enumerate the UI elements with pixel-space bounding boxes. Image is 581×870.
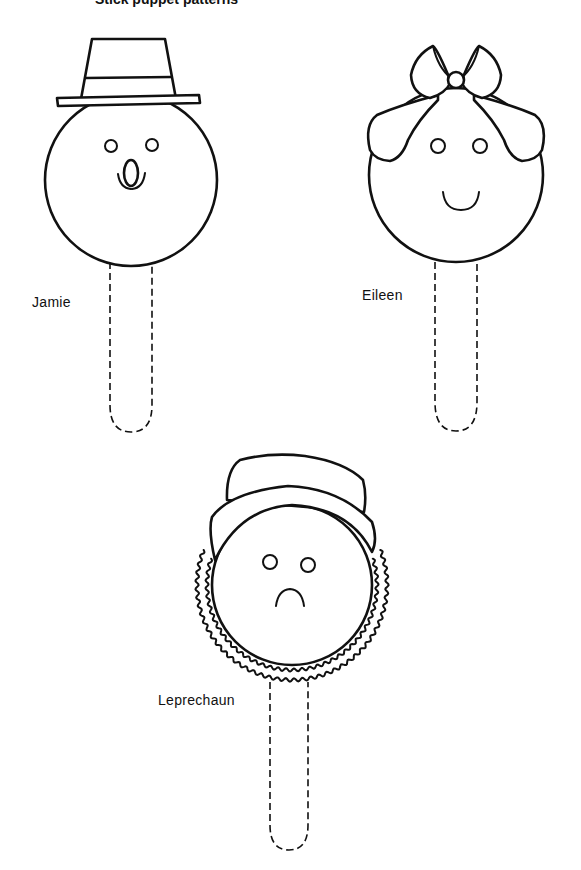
eileen-stick-outline (435, 262, 477, 431)
jamie-hat-band (86, 77, 171, 78)
jamie-stick-outline (110, 262, 152, 432)
puppet-label-eileen: Eileen (362, 287, 403, 303)
puppet-label-leprechaun: Leprechaun (158, 692, 235, 708)
puppet-jamie (45, 39, 217, 432)
puppet-eileen (368, 46, 544, 431)
puppet-patterns-artwork (0, 0, 581, 870)
jamie-head (45, 94, 217, 266)
leprechaun-stick-outline (270, 682, 308, 850)
eileen-bow-knot (448, 72, 464, 88)
puppet-label-jamie: Jamie (32, 294, 71, 310)
jamie-hat-brim (57, 95, 200, 106)
puppet-leprechaun (196, 455, 389, 850)
jamie-hat-crown (81, 39, 176, 99)
